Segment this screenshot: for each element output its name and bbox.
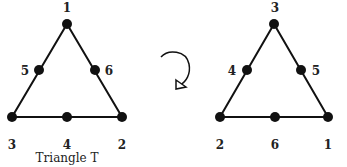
midpoint-right-dot bbox=[90, 65, 100, 75]
rot-midpoint-right-dot bbox=[296, 65, 306, 75]
rot-label-top: 3 bbox=[271, 1, 279, 15]
rot-midpoint-left-dot bbox=[242, 65, 252, 75]
vertex-top-dot bbox=[62, 19, 72, 29]
rot-vertex-bottom-left-dot bbox=[215, 112, 225, 122]
rot-vertex-top-dot bbox=[269, 19, 279, 29]
vertex-bottom-right-dot bbox=[117, 112, 127, 122]
triangle-rotation-diagram: 1 2 3 4 5 6 Triangle T 3 1 2 6 4 5 bbox=[0, 0, 347, 167]
midpoint-bottom-dot bbox=[62, 112, 72, 122]
clockwise-rotation-arrow-icon bbox=[161, 52, 189, 89]
label-midpoint-right: 6 bbox=[105, 64, 113, 78]
triangle-t: 1 2 3 4 5 6 Triangle T bbox=[7, 1, 127, 165]
rot-midpoint-bottom-dot bbox=[270, 112, 280, 122]
vertex-bottom-left-dot bbox=[7, 112, 17, 122]
rot-label-midpoint-bottom: 6 bbox=[271, 138, 279, 152]
rotated-triangle: 3 1 2 6 4 5 bbox=[215, 1, 333, 152]
rot-label-midpoint-left: 4 bbox=[228, 64, 236, 78]
rot-label-bottom-right: 1 bbox=[324, 138, 332, 152]
rot-label-midpoint-right: 5 bbox=[312, 64, 320, 78]
rot-label-bottom-left: 2 bbox=[216, 138, 224, 152]
rot-vertex-bottom-right-dot bbox=[323, 112, 333, 122]
label-midpoint-left: 5 bbox=[21, 64, 29, 78]
label-bottom-left: 3 bbox=[8, 138, 16, 152]
label-top: 1 bbox=[63, 1, 71, 15]
label-bottom-right: 2 bbox=[118, 138, 126, 152]
triangle-t-caption: Triangle T bbox=[36, 151, 99, 165]
label-midpoint-bottom: 4 bbox=[63, 138, 71, 152]
midpoint-left-dot bbox=[34, 65, 44, 75]
